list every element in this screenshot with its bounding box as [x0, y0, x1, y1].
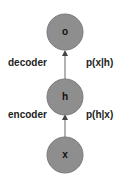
hidden-node-label: h — [55, 91, 75, 102]
input-node-label: x — [55, 149, 75, 160]
encoder-label: encoder — [8, 109, 47, 120]
encoder-prob-label: p(h|x) — [86, 109, 113, 120]
decoder-label: decoder — [8, 57, 47, 68]
output-node-label: o — [55, 26, 75, 37]
decoder-prob-label: p(x|h) — [86, 57, 113, 68]
